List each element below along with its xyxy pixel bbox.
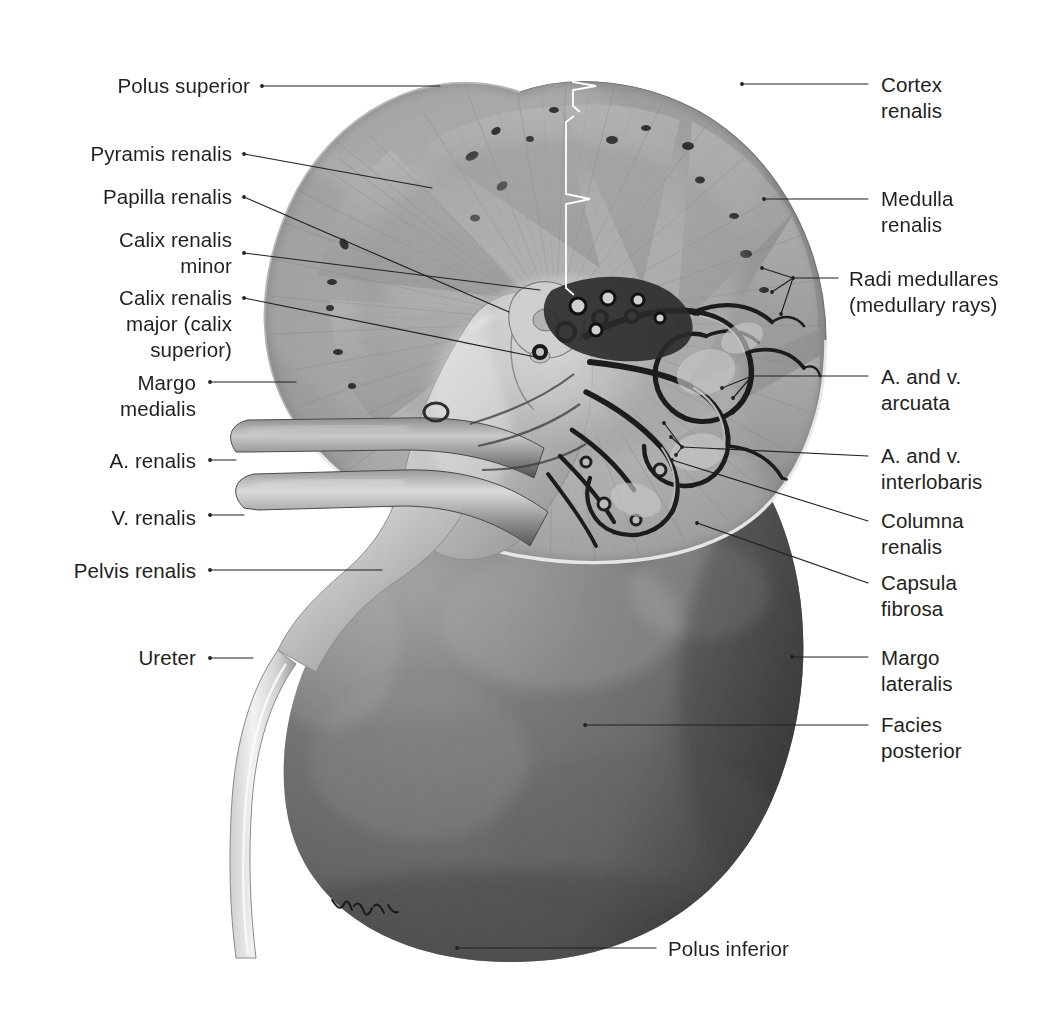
label-line: major (calix bbox=[119, 311, 232, 337]
label-cortex-renalis: Cortexrenalis bbox=[881, 72, 942, 124]
leader-margo-medialis-endpoint bbox=[208, 380, 212, 384]
label-line: fibrosa bbox=[881, 596, 957, 622]
leader-interlob-c-endpoint bbox=[674, 453, 678, 457]
leader-capsula-fibrosa-endpoint bbox=[695, 521, 699, 525]
label-capsula-fibrosa: Capsulafibrosa bbox=[881, 570, 957, 622]
label-line: renalis bbox=[881, 98, 942, 124]
label-line: Polus inferior bbox=[668, 936, 789, 962]
label-line: arcuata bbox=[881, 390, 961, 416]
leader-radi-a-endpoint bbox=[760, 266, 764, 270]
leader-margo-lateralis-endpoint bbox=[790, 655, 794, 659]
label-a-v-interlobaris: A. and v.interlobaris bbox=[881, 443, 982, 495]
label-line: Pelvis renalis bbox=[74, 558, 196, 584]
label-a-renalis: A. renalis bbox=[110, 448, 196, 474]
leader-facies-posterior-endpoint bbox=[583, 723, 587, 727]
leader-ureter-endpoint bbox=[208, 656, 212, 660]
label-line: Calix renalis bbox=[119, 285, 232, 311]
leader-interlob-main-endpoint bbox=[680, 445, 684, 449]
leader-a-renalis-endpoint bbox=[208, 458, 212, 462]
label-margo-medialis: Margomedialis bbox=[120, 370, 196, 422]
label-line: A. and v. bbox=[881, 443, 982, 469]
label-line: A. renalis bbox=[110, 448, 196, 474]
leader-calix-minor-endpoint bbox=[242, 251, 246, 255]
label-line: Polus superior bbox=[118, 73, 250, 99]
label-margo-lateralis: Margolateralis bbox=[881, 645, 953, 697]
leader-pyramis-renalis-endpoint bbox=[242, 152, 246, 156]
leader-calix-major-endpoint bbox=[242, 296, 246, 300]
leader-radi-b-endpoint bbox=[770, 290, 774, 294]
leader-polus-inferior-endpoint bbox=[455, 946, 459, 950]
leader-arcuata-b-endpoint bbox=[731, 396, 735, 400]
anatomy-plate: Polus superiorPyramis renalisPapilla ren… bbox=[0, 0, 1048, 1027]
leader-medulla-renalis-endpoint bbox=[762, 197, 766, 201]
leader-pelvis-renalis-endpoint bbox=[208, 568, 212, 572]
label-facies-posterior: Faciesposterior bbox=[881, 712, 962, 764]
label-line: Pyramis renalis bbox=[90, 141, 232, 167]
leader-arcuata-a-endpoint bbox=[720, 386, 724, 390]
label-columna-renalis: Columnarenalis bbox=[881, 508, 964, 560]
leader-interlob-a-endpoint bbox=[662, 421, 666, 425]
label-line: lateralis bbox=[881, 671, 953, 697]
leader-radi-c-endpoint bbox=[779, 312, 783, 316]
leader-polus-superior-endpoint bbox=[260, 84, 264, 88]
leader-interlob-b-endpoint bbox=[669, 435, 673, 439]
label-line: posterior bbox=[881, 738, 962, 764]
label-line: medialis bbox=[120, 396, 196, 422]
label-line: Ureter bbox=[138, 645, 196, 671]
label-line: A. and v. bbox=[881, 364, 961, 390]
label-line: Columna bbox=[881, 508, 964, 534]
leader-cortex-renalis-endpoint bbox=[740, 82, 744, 86]
label-line: minor bbox=[119, 253, 232, 279]
label-line: Papilla renalis bbox=[103, 184, 232, 210]
label-polus-inferior: Polus inferior bbox=[668, 936, 789, 962]
leader-v-renalis-endpoint bbox=[208, 513, 212, 517]
label-line: Cortex bbox=[881, 72, 942, 98]
label-ureter: Ureter bbox=[138, 645, 196, 671]
label-line: Facies bbox=[881, 712, 962, 738]
label-line: Calix renalis bbox=[119, 227, 232, 253]
leader-papilla-renalis-endpoint bbox=[242, 195, 246, 199]
label-medulla-renalis: Medullarenalis bbox=[881, 186, 954, 238]
label-line: renalis bbox=[881, 212, 954, 238]
label-line: Radi medullares bbox=[849, 266, 999, 292]
leader-columna-renalis-endpoint bbox=[670, 458, 674, 462]
label-line: Capsula bbox=[881, 570, 957, 596]
label-line: (medullary rays) bbox=[849, 292, 999, 318]
label-radi-medullares: Radi medullares(medullary rays) bbox=[849, 266, 999, 318]
label-pelvis-renalis: Pelvis renalis bbox=[74, 558, 196, 584]
leader-arcuata-main-endpoint bbox=[750, 374, 754, 378]
label-line: Margo bbox=[120, 370, 196, 396]
label-calix-renalis-minor: Calix renalisminor bbox=[119, 227, 232, 279]
label-line: interlobaris bbox=[881, 469, 982, 495]
label-line: Margo bbox=[881, 645, 953, 671]
label-a-v-arcuata: A. and v.arcuata bbox=[881, 364, 961, 416]
label-calix-renalis-major: Calix renalismajor (calixsuperior) bbox=[119, 285, 232, 363]
label-pyramis-renalis: Pyramis renalis bbox=[90, 141, 232, 167]
label-line: superior) bbox=[119, 337, 232, 363]
label-line: V. renalis bbox=[111, 505, 196, 531]
label-papilla-renalis: Papilla renalis bbox=[103, 184, 232, 210]
leader-radi-main-endpoint bbox=[791, 276, 795, 280]
label-polus-superior: Polus superior bbox=[118, 73, 250, 99]
label-line: Medulla bbox=[881, 186, 954, 212]
label-line: renalis bbox=[881, 534, 964, 560]
label-v-renalis: V. renalis bbox=[111, 505, 196, 531]
